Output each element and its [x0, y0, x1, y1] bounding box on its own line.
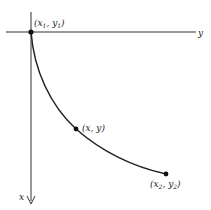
point-mid	[74, 127, 79, 132]
point-end	[164, 172, 169, 177]
point-start	[28, 29, 33, 34]
point-start-label: (x1, y1)	[34, 18, 65, 29]
point-mid-label: (x, y)	[82, 123, 105, 133]
curve	[31, 32, 166, 174]
point-end-label: (x2, y2)	[150, 179, 181, 190]
x-axis-label: x	[19, 192, 24, 202]
diagram-canvas: y x (x1, y1) (x, y) (x2, y2)	[0, 0, 211, 210]
y-axis-label: y	[197, 28, 204, 38]
